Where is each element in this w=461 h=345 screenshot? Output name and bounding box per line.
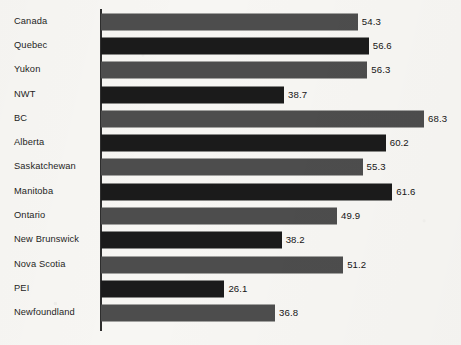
bar-shape xyxy=(101,86,284,103)
bar-row: NWT38.7 xyxy=(0,82,461,106)
bar-shape xyxy=(101,280,224,297)
bar-value-label: 36.8 xyxy=(279,308,298,318)
bar-shape xyxy=(101,183,392,200)
bar-shape xyxy=(101,110,424,127)
bar-row: Newfoundland36.8 xyxy=(0,301,461,325)
bar-category-label: Alberta xyxy=(14,138,44,147)
bar-row: Manitoba61.6 xyxy=(0,180,461,204)
bar-row: Nova Scotia51.2 xyxy=(0,253,461,277)
bar-value-label: 38.7 xyxy=(288,90,307,100)
bar-category-label: NWT xyxy=(14,90,36,99)
bar-value-label: 61.6 xyxy=(396,187,415,197)
bar-row: Canada54.3 xyxy=(0,10,461,34)
bar-category-label: Manitoba xyxy=(14,187,53,196)
bar-row: Yukon56.3 xyxy=(0,58,461,82)
bar-shape xyxy=(101,13,358,30)
bar-shape xyxy=(101,159,363,176)
bar-row: PEI26.1 xyxy=(0,277,461,301)
horizontal-bar-chart: Canada54.3Quebec56.6Yukon56.3NWT38.7BC68… xyxy=(0,0,461,345)
bar-category-label: Canada xyxy=(14,17,47,26)
bar-shape xyxy=(101,256,343,273)
bar-category-label: Nova Scotia xyxy=(14,260,65,269)
bar-value-label: 56.6 xyxy=(373,41,392,51)
bar-shape xyxy=(101,305,275,322)
bar-category-label: Quebec xyxy=(14,41,47,50)
bar-value-label: 60.2 xyxy=(390,138,409,148)
bar-category-label: Saskatchewan xyxy=(14,163,76,172)
bar-shape xyxy=(101,208,337,225)
bar-category-label: PEI xyxy=(14,284,29,293)
bar-shape xyxy=(101,37,369,54)
bar-row: BC68.3 xyxy=(0,107,461,131)
bar-value-label: 26.1 xyxy=(228,284,247,294)
bar-row: Saskatchewan55.3 xyxy=(0,155,461,179)
bar-value-label: 68.3 xyxy=(428,114,447,124)
bar-row: New Brunswick38.2 xyxy=(0,228,461,252)
bar-category-label: BC xyxy=(14,114,27,123)
bar-value-label: 51.2 xyxy=(347,260,366,270)
plot-area: Canada54.3Quebec56.6Yukon56.3NWT38.7BC68… xyxy=(0,0,461,345)
bar-category-label: Ontario xyxy=(14,211,45,220)
bar-category-label: Newfoundland xyxy=(14,309,75,318)
bar-row: Alberta60.2 xyxy=(0,131,461,155)
bar-category-label: Yukon xyxy=(14,66,40,75)
bar-row: Ontario49.9 xyxy=(0,204,461,228)
bar-category-label: New Brunswick xyxy=(14,236,79,245)
bar-row: Quebec56.6 xyxy=(0,34,461,58)
bar-value-label: 38.2 xyxy=(286,236,305,246)
bar-value-label: 55.3 xyxy=(367,163,386,173)
bar-value-label: 56.3 xyxy=(371,65,390,75)
bar-shape xyxy=(101,135,386,152)
bar-shape xyxy=(101,232,282,249)
bar-value-label: 54.3 xyxy=(362,17,381,27)
bar-value-label: 49.9 xyxy=(341,211,360,221)
bar-shape xyxy=(101,62,367,79)
